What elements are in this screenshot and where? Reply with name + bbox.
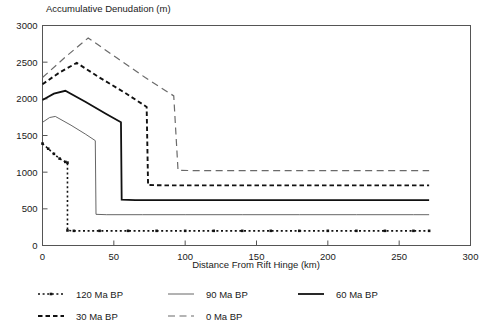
x-axis-title: Distance From Rift Hinge (km) <box>192 259 320 270</box>
x-tick-label: 250 <box>391 251 407 262</box>
series-marker <box>298 230 301 233</box>
series-marker <box>73 230 76 233</box>
y-tick-label: 3000 <box>16 20 37 31</box>
series-marker <box>98 230 101 233</box>
y-tick-label: 1500 <box>16 130 37 141</box>
series-marker <box>327 230 330 233</box>
denudation-chart: Accumulative Denudation (m) 050010001500… <box>0 0 488 334</box>
x-tick-label: 300 <box>463 251 479 262</box>
series-marker <box>58 157 61 160</box>
legend-label: 30 Ma BP <box>76 311 118 322</box>
legend-label: 0 Ma BP <box>206 311 242 322</box>
legend-label: 90 Ma BP <box>206 289 248 300</box>
y-axis-title: Accumulative Denudation (m) <box>46 3 171 14</box>
series-marker <box>47 147 50 150</box>
series-marker <box>53 153 56 156</box>
series-marker <box>127 230 130 233</box>
y-tick-label: 2500 <box>16 57 37 68</box>
series-marker <box>355 230 358 233</box>
x-tick-label: 50 <box>109 251 120 262</box>
series-marker <box>41 142 44 145</box>
legend-label: 60 Ma BP <box>336 289 378 300</box>
series-marker <box>66 229 69 232</box>
legend-label: 120 Ma BP <box>76 289 123 300</box>
x-tick-label: 100 <box>177 251 193 262</box>
series-marker <box>241 230 244 233</box>
y-tick-label: 500 <box>22 203 38 214</box>
y-tick-label: 1000 <box>16 167 37 178</box>
series-marker <box>212 230 215 233</box>
series-marker <box>428 230 431 233</box>
x-tick-label: 0 <box>40 251 45 262</box>
y-tick-label: 2000 <box>16 93 37 104</box>
series-marker <box>66 161 69 164</box>
series-marker <box>269 230 272 233</box>
series-marker <box>184 230 187 233</box>
x-tick-label: 200 <box>320 251 336 262</box>
series-marker <box>155 230 158 233</box>
series-marker <box>384 230 387 233</box>
series-marker <box>412 230 415 233</box>
y-tick-label: 0 <box>32 240 37 251</box>
legend-marker <box>50 293 53 296</box>
